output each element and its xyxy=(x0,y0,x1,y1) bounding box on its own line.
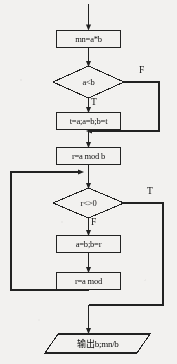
branch-label-looptest-true: T xyxy=(147,186,153,196)
node-init-process xyxy=(57,31,121,48)
branch-label-compare-false: F xyxy=(139,65,144,75)
node-output-parallelogram xyxy=(45,334,150,353)
node-looptest-decision xyxy=(53,188,124,218)
node-mod1-process xyxy=(57,148,121,165)
flowchart-vector-layer xyxy=(0,0,177,364)
node-swap-process xyxy=(57,113,121,130)
branch-label-compare-true: T xyxy=(91,97,97,107)
node-shift-process xyxy=(57,236,121,253)
node-compare-decision xyxy=(53,66,124,98)
node-mod2-process xyxy=(57,273,121,290)
flowchart-canvas: mn=a*b a<b t=a;a=b;b=t r=a mod b r<>0 a=… xyxy=(0,0,177,364)
branch-label-looptest-false: F xyxy=(91,217,96,227)
